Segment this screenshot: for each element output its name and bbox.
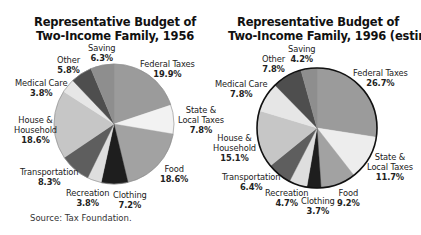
- left-label-other: Other5.8%: [57, 55, 80, 75]
- left-label-federal-taxes: Federal Taxes19.9%: [140, 59, 195, 79]
- left-label-state-local-taxes: State &Local Taxes7.8%: [178, 105, 224, 135]
- right-label-food: Food9.2%: [337, 188, 360, 208]
- left-label-clothing: Clothing7.2%: [113, 190, 147, 210]
- left-label-medical-care: Medical Care3.8%: [15, 78, 67, 98]
- left-label-house-household: House &Household18.6%: [14, 115, 57, 145]
- right-label-saving: Saving4.2%: [288, 44, 316, 64]
- right-label-other: Other7.8%: [262, 54, 285, 74]
- source-note: Source: Tax Foundation.: [30, 213, 132, 223]
- left-label-recreation: Recreation3.8%: [66, 188, 109, 208]
- right-label-medical-care: Medical Care7.8%: [215, 79, 267, 99]
- left-label-food: Food18.6%: [160, 164, 188, 184]
- right-label-federal-taxes: Federal Taxes26.7%: [353, 68, 408, 88]
- right-label-state-local-taxes: State &Local Taxes11.7%: [367, 152, 413, 182]
- left-label-transportation: Transportation8.3%: [20, 167, 79, 187]
- left-label-saving: Saving6.3%: [88, 43, 116, 63]
- right-label-clothing: Clothing3.7%: [301, 196, 335, 216]
- right-label-house-household: House &Household15.1%: [213, 133, 256, 163]
